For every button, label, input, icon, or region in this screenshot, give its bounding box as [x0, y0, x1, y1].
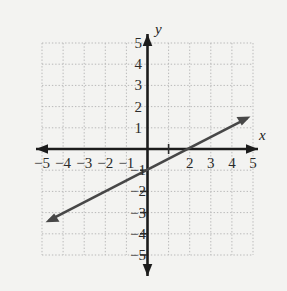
graph-figure: −5 −4 −3 −2 −1 2 3 4 5 5 4 3 2 1 −1 −2 −… — [0, 0, 287, 291]
x-axis-label: x — [259, 128, 266, 143]
y-tick-label--1: −1 — [130, 163, 146, 178]
x-tick-label--2: −2 — [97, 156, 113, 171]
x-tick-label-3: 3 — [207, 156, 215, 171]
y-tick-label-3: 3 — [135, 78, 143, 93]
y-tick-label--5: −5 — [130, 248, 146, 263]
x-tick-label--3: −3 — [76, 156, 92, 171]
y-tick-label-4: 4 — [135, 57, 143, 72]
x-tick-label--4: −4 — [55, 156, 71, 171]
y-axis-label: y — [155, 22, 162, 37]
y-tick-label-5: 5 — [135, 36, 143, 51]
x-tick-label-2: 2 — [186, 156, 194, 171]
x-tick-label-4: 4 — [228, 156, 236, 171]
y-tick-label--3: −3 — [130, 205, 146, 220]
x-tick-label-5: 5 — [249, 156, 257, 171]
y-tick-label--2: −2 — [130, 184, 146, 199]
y-tick-label-1: 1 — [135, 120, 143, 135]
x-tick-label--5: −5 — [34, 156, 50, 171]
y-tick-label-2: 2 — [135, 99, 143, 114]
y-tick-label--4: −4 — [130, 226, 146, 241]
